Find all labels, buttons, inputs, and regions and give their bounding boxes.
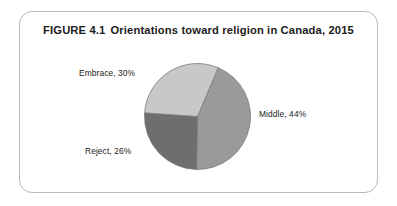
figure-container: FIGURE 4.1Orientations toward religion i… — [0, 0, 397, 206]
pie-label-reject: Reject, 26% — [85, 146, 131, 156]
pie-slices — [145, 64, 251, 170]
figure-title-text: Orientations toward religion in Canada, … — [110, 24, 353, 36]
pie-label-embrace: Embrace, 30% — [79, 68, 135, 78]
pie-chart — [144, 62, 251, 171]
pie-label-middle: Middle, 44% — [259, 109, 306, 119]
figure-number-label: FIGURE 4.1 — [43, 24, 105, 36]
pie-slice-reject[interactable] — [145, 113, 198, 170]
pie-chart-svg — [144, 62, 251, 171]
figure-title: FIGURE 4.1Orientations toward religion i… — [0, 24, 397, 36]
